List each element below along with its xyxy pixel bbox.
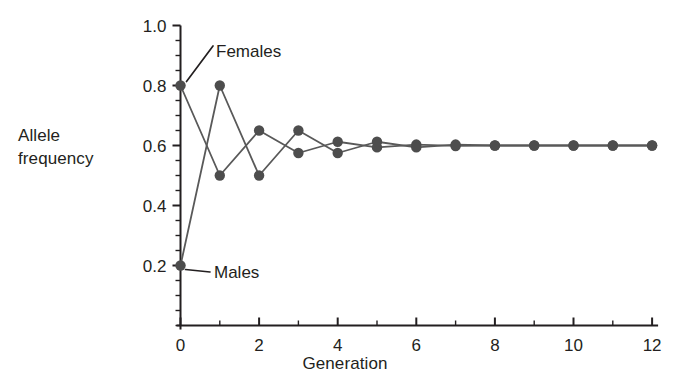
data-point-marker [450, 139, 460, 149]
data-point-marker [293, 148, 303, 158]
data-point-marker [175, 80, 185, 90]
data-point-marker [333, 137, 343, 147]
x-axis-label: Generation [0, 354, 690, 374]
x-tick-label: 8 [490, 336, 499, 355]
x-tick-label: 2 [254, 336, 263, 355]
data-point-marker [215, 170, 225, 180]
data-point-marker [333, 148, 343, 158]
annotation-leader-lines [186, 46, 214, 272]
x-tick-label: 12 [643, 336, 662, 355]
data-point-marker [175, 260, 185, 270]
y-axis-label: Allelefrequency [18, 124, 94, 170]
x-tick-label: 4 [333, 336, 342, 355]
series-annotation-females: Females [216, 42, 281, 62]
x-tick-label: 0 [176, 336, 185, 355]
data-point-marker [293, 125, 303, 135]
series-annotation-males: Males [214, 263, 259, 283]
y-tick-label: 0.4 [143, 197, 167, 216]
data-point-marker [568, 140, 578, 150]
data-point-marker [411, 142, 421, 152]
y-tick-label: 0.6 [143, 137, 167, 156]
data-point-marker [608, 140, 618, 150]
x-tick-label: 6 [412, 336, 421, 355]
y-tick-label: 0.8 [143, 77, 167, 96]
y-tick-label: 1.0 [143, 17, 167, 36]
data-point-marker [372, 137, 382, 147]
data-series [175, 80, 657, 270]
axes: 0246810120.20.40.60.81.0 [143, 17, 662, 355]
y-axis-label-line-1: Allele [18, 126, 60, 145]
data-point-marker [529, 140, 539, 150]
data-point-marker [254, 170, 264, 180]
data-point-marker [215, 80, 225, 90]
data-point-marker [490, 140, 500, 150]
plot-area: 0246810120.20.40.60.81.0 [0, 0, 690, 392]
y-tick-label: 0.2 [143, 257, 167, 276]
x-tick-label: 10 [564, 336, 583, 355]
data-point-marker [254, 125, 264, 135]
y-axis-label-line-2: frequency [18, 149, 94, 168]
chart-figure: Allelefrequency Generation Females Males… [0, 0, 690, 392]
data-point-marker [647, 140, 657, 150]
